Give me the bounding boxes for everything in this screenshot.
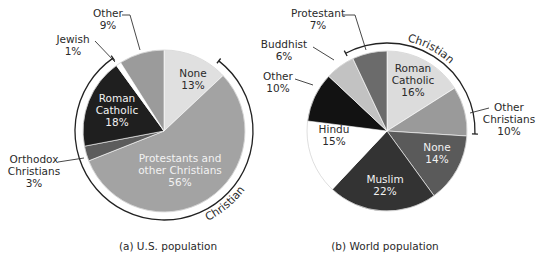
slice-label-hindu: Hindu15% [319,123,350,147]
slice-label-buddhist: Buddhist6% [261,38,307,62]
leader-line-other [295,79,313,85]
slice-label-other: Other9% [93,7,123,31]
slice-label-protestant: Protestant7% [291,7,345,31]
slice-label-orthodox-christians: OrthodoxChristians3% [8,153,60,189]
world-population-caption: (b) World population [331,240,439,252]
leader-line-other [122,15,140,50]
us-population-caption: (a) U.S. population [119,240,217,252]
slice-label-jewish: Jewish1% [55,33,89,57]
pie-charts-figure: ChristianNone13%Protestants andother Chr… [0,0,536,262]
slice-label-none: None14% [423,141,450,165]
slice-label-other-christians: OtherChristians10% [483,101,535,137]
world-population-pie-chart: ChristianRomanCatholic16%OtherChristians… [261,7,535,211]
slice-label-other: Other10% [263,70,293,94]
leader-line-protestant [343,15,366,50]
us-population-pie-chart: ChristianNone13%Protestants andother Chr… [8,7,253,224]
leader-line-jewish [95,41,115,62]
slice-label-none: None13% [179,67,206,91]
leader-line-buddhist [313,47,334,60]
